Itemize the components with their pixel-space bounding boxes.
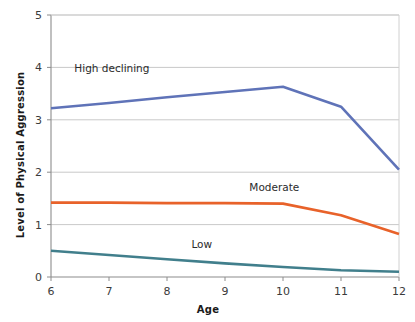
gridlines — [51, 15, 399, 225]
series-annotation-high-declining: High declining — [74, 62, 149, 74]
x-tick-label: 8 — [164, 285, 171, 298]
y-tick-label: 1 — [35, 219, 42, 232]
y-tick-labels: 012345 — [35, 9, 42, 284]
series-line-moderate — [51, 203, 399, 234]
x-tick-label: 9 — [222, 285, 229, 298]
chart-canvas: 012345 6789101112 High decliningModerate… — [0, 0, 415, 322]
data-series-group — [51, 87, 399, 272]
tick-marks — [47, 15, 399, 281]
y-tick-label: 0 — [35, 271, 42, 284]
series-line-low — [51, 251, 399, 272]
series-annotations: High decliningModerateLow — [74, 62, 299, 251]
x-tick-label: 6 — [48, 285, 55, 298]
y-tick-label: 4 — [35, 61, 42, 74]
series-annotation-low: Low — [191, 238, 212, 250]
x-tick-label: 11 — [334, 285, 348, 298]
y-tick-label: 3 — [35, 114, 42, 127]
x-tick-label: 7 — [106, 285, 113, 298]
x-tick-label: 10 — [276, 285, 290, 298]
x-tick-label: 12 — [392, 285, 406, 298]
y-tick-label: 2 — [35, 166, 42, 179]
x-tick-labels: 6789101112 — [48, 285, 407, 298]
series-line-high-declining — [51, 87, 399, 170]
x-axis-title: Age — [197, 304, 219, 315]
series-annotation-moderate: Moderate — [249, 181, 299, 193]
y-tick-label: 5 — [35, 9, 42, 22]
plot-frame — [51, 15, 399, 277]
y-axis-title: Level of Physical Aggression — [15, 72, 26, 239]
line-chart: 012345 6789101112 High decliningModerate… — [0, 0, 415, 322]
